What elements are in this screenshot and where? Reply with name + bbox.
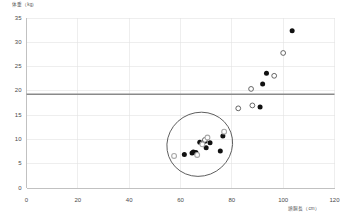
vertical-gridlines xyxy=(27,18,335,188)
point-filled-2 xyxy=(260,82,265,87)
point-open-2 xyxy=(249,87,254,92)
point-open-4 xyxy=(236,106,241,111)
plot-area xyxy=(0,0,342,218)
point-open-3 xyxy=(250,103,255,108)
point-filled-5 xyxy=(218,149,223,154)
point-open-1 xyxy=(272,73,277,78)
point-gray-4 xyxy=(172,154,177,159)
point-filled-12 xyxy=(190,151,195,156)
point-open-0 xyxy=(281,51,286,56)
series-open xyxy=(202,51,285,143)
series-filled xyxy=(182,28,295,157)
point-gray-0 xyxy=(222,129,227,134)
point-filled-6 xyxy=(208,140,213,145)
point-filled-0 xyxy=(290,28,295,33)
point-filled-13 xyxy=(182,152,187,157)
point-gray-3 xyxy=(195,153,200,158)
scatter-chart: 体重（kg） 頭胴長（cm） 05101520253035 0204060801… xyxy=(0,0,342,218)
point-filled-3 xyxy=(258,104,263,109)
point-filled-1 xyxy=(264,71,269,76)
point-gray-2 xyxy=(200,142,205,147)
data-points xyxy=(172,28,295,158)
point-gray-1 xyxy=(205,135,210,140)
